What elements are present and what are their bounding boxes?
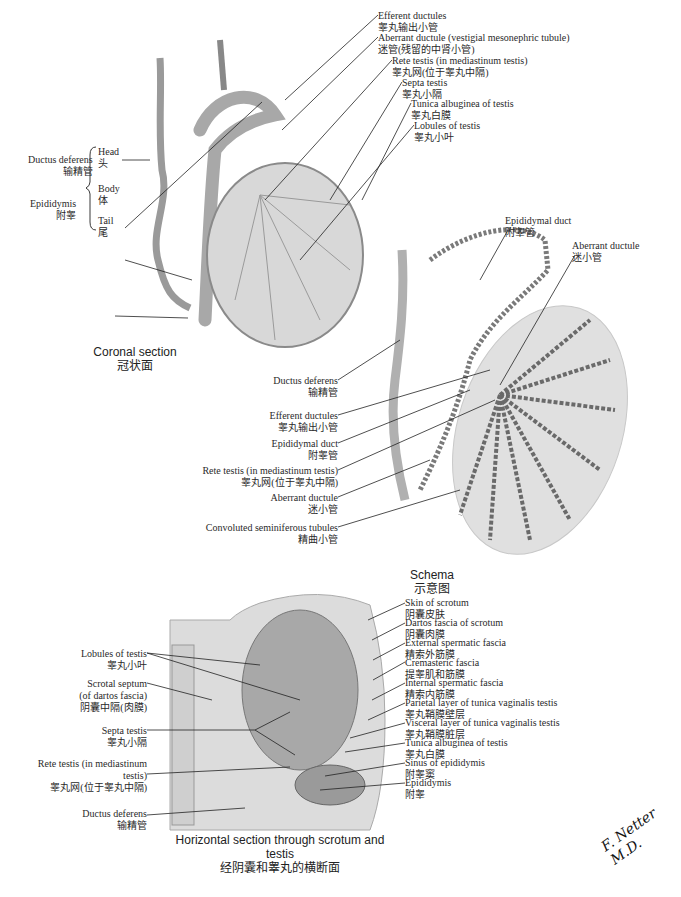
label-external-spermatic-fascia: External spermatic fascia精索外筋膜	[405, 637, 560, 657]
label-tail: Tail 尾	[98, 215, 113, 239]
label-lobules-coronal: Lobules of testis 睾丸小叶	[414, 120, 480, 144]
label-efferent-ductules-schema: Efferent ductules 睾丸输出小管	[270, 410, 338, 434]
label-ductus-deferens-coronal: Ductus deferens 输精管	[28, 154, 93, 178]
label-aberrant-ductule-vestigial: Aberrant ductule (vestigial mesonephric …	[378, 32, 570, 56]
label-rete-testis-schema: Rete testis (in mediastinum testis) 睾丸网(…	[202, 465, 338, 489]
label-internal-spermatic-fascia: Internal spermatic fascia精索内筋膜	[405, 677, 560, 697]
label-efferent-ductules: Efferent ductules 睾丸输出小管	[378, 10, 446, 34]
label-head: Head 头	[98, 146, 119, 170]
label-lobules-horizontal: Lobules of testis 睾丸小叶	[81, 648, 147, 672]
label-ductus-deferens-horizontal: Ductus deferens 输精管	[82, 808, 147, 832]
right-label-list: Skin of scrotum阴囊皮肤 Dartos fascia of scr…	[405, 597, 560, 797]
label-aberrant-ductule-top: Aberrant ductule 迷小管	[572, 240, 639, 264]
label-rete-testis-horizontal: Rete testis (in mediastinum testis) 睾丸网(…	[38, 758, 147, 794]
caption-coronal: Coronal section 冠状面	[75, 345, 195, 373]
label-dartos-fascia: Dartos fascia of scrotum阴囊肉膜	[405, 617, 560, 637]
caption-horizontal: Horizontal section through scrotum and t…	[160, 833, 400, 875]
label-epididymal-duct-schema: Epididymal duct 附睾管	[272, 438, 338, 462]
label-ductus-deferens-schema: Ductus deferens 输精管	[273, 375, 338, 399]
label-aberrant-ductule-schema: Aberrant ductule 迷小管	[271, 492, 338, 516]
label-rete-testis-coronal: Rete testis (in mediastinum testis) 睾丸网(…	[392, 55, 528, 79]
label-skin-of-scrotum: Skin of scrotum阴囊皮肤	[405, 597, 560, 617]
label-cremasteric-fascia: Cremasteric fascia提睾肌和筋膜	[405, 657, 560, 677]
label-epididymis-horizontal: Epididymis附睾	[405, 777, 560, 797]
label-tunica-albuginea-coronal: Tunica albuginea of testis 睾丸白膜	[411, 98, 514, 122]
label-epididymis: Epididymis 附睾	[30, 198, 76, 222]
label-tunica-albuginea-horizontal: Tunica albuginea of testis睾丸白膜	[405, 737, 560, 757]
label-parietal-layer: Parietal layer of tunica vaginalis testi…	[405, 697, 560, 717]
label-septa-testis-horizontal: Septa testis 睾丸小隔	[102, 725, 147, 749]
label-scrotal-septum: Scrotal septum (of dartos fascia) 阴囊中隔(肉…	[79, 678, 147, 714]
caption-schema: Schema 示意图	[392, 568, 472, 596]
label-epididymal-duct-top: Epididymal duct 附睾管	[505, 215, 571, 239]
label-convoluted-tubules: Convoluted seminiferous tubules 精曲小管	[206, 522, 338, 546]
label-sinus-of-epididymis: Sinus of epididymis附睾窦	[405, 757, 560, 777]
label-visceral-layer: Visceral layer of tunica vaginalis testi…	[405, 717, 560, 737]
label-body: Body 体	[98, 183, 120, 207]
